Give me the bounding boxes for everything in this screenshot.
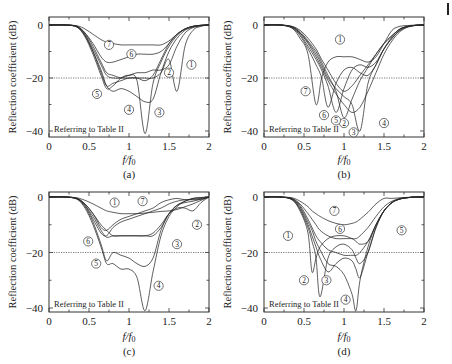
curve-number: 7 <box>141 197 145 206</box>
curve-number: 1 <box>190 60 194 69</box>
curve-label-3: 3 <box>322 276 331 285</box>
panel-d: 00.511.520−20−40Reflection coefficient (… <box>222 191 427 358</box>
curve-number: 1 <box>338 35 342 44</box>
panel-caption: (c) <box>123 345 136 358</box>
x-tick-label: 1.5 <box>162 140 176 152</box>
curve-label-1: 1 <box>283 231 292 240</box>
curve-label-3: 3 <box>155 108 164 117</box>
curve-number: 6 <box>86 237 90 246</box>
panel-caption: (b) <box>338 168 351 181</box>
x-tick-label: 1 <box>126 140 132 152</box>
y-tick-label: 0 <box>38 19 44 31</box>
x-tick-label: 0.5 <box>82 315 96 327</box>
y-axis-label: Reflection coefficient (dB) <box>7 20 19 133</box>
curve-label-5: 5 <box>92 89 101 98</box>
y-axis-label: Reflection coefficient (dB) <box>7 195 19 308</box>
curve-label-1: 1 <box>187 60 196 69</box>
curve-7 <box>49 25 209 45</box>
curve-number: 1 <box>113 198 117 207</box>
curve-label-6: 6 <box>84 237 93 246</box>
curve-2 <box>264 197 424 297</box>
y-tick-label: −40 <box>241 302 259 314</box>
x-tick-label: 0 <box>261 140 267 152</box>
curve-label-2: 2 <box>192 220 201 229</box>
curve-number: 7 <box>333 206 337 215</box>
curve-label-6: 6 <box>335 224 344 233</box>
x-tick-label: 1 <box>341 315 347 327</box>
curve-number: 3 <box>325 276 329 285</box>
curve-3 <box>49 197 209 238</box>
curve-label-3: 3 <box>172 240 181 249</box>
x-tick-label: 0.5 <box>297 315 311 327</box>
curve-number: 7 <box>304 87 308 96</box>
curve-7 <box>264 197 424 225</box>
curve-label-1: 1 <box>335 35 344 44</box>
x-axis-label: f/f0 <box>122 153 135 167</box>
curve-label-6: 6 <box>127 50 136 59</box>
table-reference-note: Referring to Table II <box>269 124 339 134</box>
curve-5 <box>49 197 209 267</box>
y-tick-label: −20 <box>26 72 44 84</box>
curve-number: 2 <box>195 220 199 229</box>
x-axis-label: f/f0 <box>122 330 135 344</box>
curve-number: 4 <box>382 119 386 128</box>
y-tick-label: 0 <box>38 191 44 203</box>
curve-label-7: 7 <box>330 206 339 215</box>
x-tick-label: 1.5 <box>162 315 176 327</box>
curve-number: 5 <box>95 90 99 99</box>
x-tick-label: 1.5 <box>377 315 391 327</box>
y-tick-label: −40 <box>26 302 44 314</box>
x-tick-label: 0 <box>46 140 52 152</box>
x-tick-label: 2 <box>421 315 427 327</box>
curve-number: 6 <box>130 50 134 59</box>
curve-label-3: 3 <box>349 128 358 137</box>
plot-frame <box>49 192 209 312</box>
curve-label-4: 4 <box>379 118 388 127</box>
curve-number: 2 <box>342 119 346 128</box>
panel-caption: (a) <box>123 168 136 181</box>
curve-label-5: 5 <box>397 226 406 235</box>
x-axis-label: f/f0 <box>337 330 350 344</box>
table-reference-note: Referring to Table II <box>54 299 124 309</box>
curve-label-4: 4 <box>154 281 163 290</box>
x-tick-label: 0.5 <box>82 140 96 152</box>
curve-label-6: 6 <box>319 111 328 120</box>
y-tick-label: −40 <box>241 125 259 137</box>
curve-label-1: 1 <box>110 198 119 207</box>
curve-4 <box>49 25 209 134</box>
curve-label-2: 2 <box>299 276 308 285</box>
panel-c: 00.511.520−20−40Reflection coefficient (… <box>7 191 212 358</box>
curve-number: 5 <box>94 259 98 268</box>
panel-a: 00.511.520−20−40Reflection coefficient (… <box>7 17 212 181</box>
y-tick-label: 0 <box>253 19 259 31</box>
y-tick-label: −40 <box>26 125 44 137</box>
x-tick-label: 1 <box>341 140 347 152</box>
curve-label-7: 7 <box>104 40 113 49</box>
curve-number: 3 <box>352 128 356 137</box>
x-tick-label: 2 <box>421 140 427 152</box>
curve-label-7: 7 <box>138 197 147 206</box>
panel-b: 00.511.520−20−40Reflection coefficient (… <box>222 17 427 181</box>
y-tick-label: −20 <box>241 247 259 259</box>
x-tick-label: 0.5 <box>297 140 311 152</box>
curve-3 <box>49 25 209 103</box>
x-tick-label: 1.5 <box>377 140 391 152</box>
plot-frame <box>264 192 424 312</box>
x-tick-label: 2 <box>206 140 212 152</box>
panel-caption: (d) <box>338 345 351 358</box>
y-axis-label: Reflection coefficient (dB) <box>222 20 234 133</box>
curve-number: 1 <box>286 231 290 240</box>
curve-number: 2 <box>302 276 306 285</box>
curve-number: 2 <box>167 68 171 77</box>
x-tick-label: 1 <box>126 315 132 327</box>
y-tick-label: −20 <box>241 72 259 84</box>
y-tick-label: −20 <box>26 247 44 259</box>
x-tick-label: 0 <box>261 315 267 327</box>
table-reference-note: Referring to Table II <box>54 124 124 134</box>
y-axis-label: Reflection coefficient (dB) <box>222 195 234 308</box>
curve-number: 7 <box>107 40 111 49</box>
curve-label-5: 5 <box>92 259 101 268</box>
curve-number: 4 <box>344 295 348 304</box>
plot-frame <box>49 17 209 137</box>
x-axis-label: f/f0 <box>337 153 350 167</box>
